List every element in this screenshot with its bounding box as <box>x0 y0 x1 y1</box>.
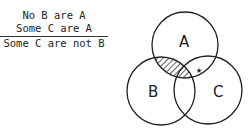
label-b: B <box>148 83 158 101</box>
circle-c <box>174 56 242 124</box>
label-c: C <box>213 83 223 101</box>
label-a: A <box>179 33 190 51</box>
venn-diagram: A B C ★ <box>0 0 251 133</box>
star-icon: ★ <box>196 64 202 75</box>
